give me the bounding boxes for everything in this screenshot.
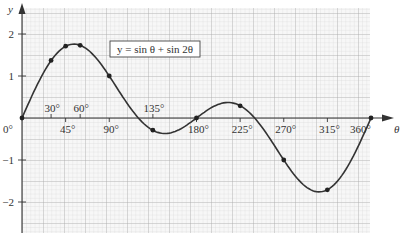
data-point [325,187,330,192]
data-point [63,44,68,49]
tick-label: 315° [319,123,340,135]
data-point [369,116,374,121]
tick-label: −2 [2,196,14,208]
x-end-label: 360° [350,123,371,135]
chart: y = sin θ + sin 2θ y θ 0° 360° 30°60°135… [0,0,401,238]
equation-box: y = sin θ + sin 2θ [110,41,200,57]
data-point [194,116,199,121]
data-point [238,103,243,108]
tick-label: 1 [9,70,15,82]
tick-label: 45° [60,123,75,135]
x-axis-arrow-icon [382,115,394,122]
tick-label: 180° [188,123,209,135]
x-axis-label: θ [394,123,400,135]
tick-label: 135° [143,102,164,114]
data-point [78,43,83,48]
origin-label: 0° [3,123,13,135]
data-point [49,58,54,63]
tick-label: 225° [232,123,253,135]
equation-label: y = sin θ + sin 2θ [117,43,193,55]
tick-label: 30° [44,102,59,114]
data-point [107,74,112,79]
y-axis-label: y [7,3,13,15]
data-point [20,116,25,121]
tick-label: 60° [73,102,88,114]
data-point [150,128,155,133]
data-point [281,158,286,163]
tick-label: 2 [9,28,15,40]
tick-label: −1 [2,154,14,166]
tick-label: 90° [104,123,119,135]
tick-label: 270° [275,123,296,135]
y-tick-labels: 21−1−2 [2,28,14,208]
